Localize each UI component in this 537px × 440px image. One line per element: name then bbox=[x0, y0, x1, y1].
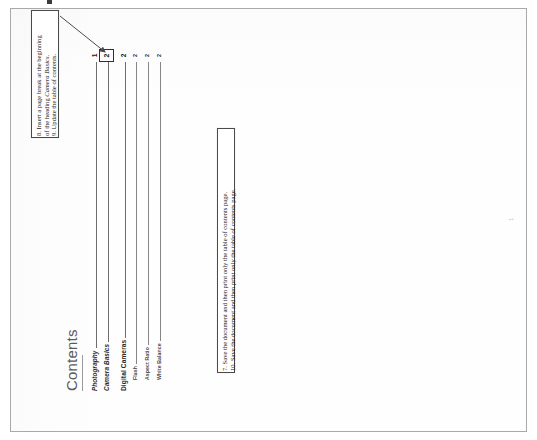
toc-entry-page-number: 2 bbox=[142, 51, 153, 60]
callout-line-1: 8. Insert a page break at the beginning bbox=[35, 35, 43, 136]
callout-box-steps-7-10: 7. Save the document and then print only… bbox=[217, 128, 235, 373]
callout-line-2: 10. Save the document and then print onl… bbox=[228, 189, 236, 371]
top-edge-nub bbox=[47, 0, 52, 4]
callout-text: 7. Save the document and then print only… bbox=[221, 189, 236, 371]
toc-entry-label: Aspect Ratio bbox=[142, 347, 153, 380]
callout-line-2-emphasis: Camera Basics bbox=[43, 57, 50, 97]
toc-leader-line bbox=[147, 62, 149, 345]
toc-leader-line bbox=[135, 62, 137, 364]
callout-line-2: of the heading Camera Basics. bbox=[43, 35, 51, 136]
toc-entry-label: Flash bbox=[130, 366, 141, 380]
toc-leader-line bbox=[124, 62, 126, 338]
page-title: Contents bbox=[63, 51, 80, 391]
callout-box-steps-8-9: 8. Insert a page break at the beginning … bbox=[31, 10, 59, 138]
toc-entry-photography[interactable]: Photography 1 bbox=[89, 51, 100, 391]
toc-entry-page-number: 1 bbox=[89, 51, 100, 60]
callout-line-1: 7. Save the document and then print only… bbox=[221, 189, 229, 371]
toc-entry-white-balance[interactable]: White Balance 2 bbox=[154, 51, 165, 380]
page-footer-number: 1 bbox=[508, 218, 514, 221]
toc-entry-aspect-ratio[interactable]: Aspect Ratio 2 bbox=[142, 51, 153, 380]
toc-entry-page-number: 2 bbox=[154, 51, 165, 60]
callout-line-3: 9. Update the table of contents. bbox=[50, 35, 58, 136]
toc-entry-label: White Balance bbox=[154, 343, 165, 380]
toc-entry-list: Photography 1 Camera Basics 2 Digital Ca… bbox=[89, 51, 165, 391]
callout-line-2-prefix: of the heading bbox=[43, 97, 50, 136]
toc-leader-line bbox=[95, 62, 97, 348]
callout-line-2-suffix: . bbox=[43, 55, 50, 57]
toc-entry-page-number-highlighted: 2 bbox=[101, 51, 112, 60]
toc-entry-flash[interactable]: Flash 2 bbox=[130, 51, 141, 380]
toc-entry-label: Photography bbox=[89, 350, 100, 391]
toc-entry-label: Digital Cameras bbox=[118, 340, 129, 391]
title-underline bbox=[82, 355, 83, 391]
toc-leader-line bbox=[107, 62, 109, 342]
toc-entry-label: Camera Basics bbox=[101, 344, 112, 391]
table-of-contents: Contents Photography 1 Camera Basics 2 D… bbox=[63, 51, 183, 391]
screenshot-canvas: Contents Photography 1 Camera Basics 2 D… bbox=[0, 0, 537, 440]
toc-entry-page-number: 2 bbox=[130, 51, 141, 60]
document-page-sheet: Contents Photography 1 Camera Basics 2 D… bbox=[10, 8, 527, 432]
toc-entry-camera-basics[interactable]: Camera Basics 2 bbox=[101, 51, 112, 391]
toc-leader-line bbox=[159, 62, 161, 341]
callout-text: 8. Insert a page break at the beginning … bbox=[35, 35, 58, 136]
toc-entry-page-number: 2 bbox=[118, 51, 129, 60]
toc-entry-digital-cameras[interactable]: Digital Cameras 2 bbox=[118, 51, 129, 391]
